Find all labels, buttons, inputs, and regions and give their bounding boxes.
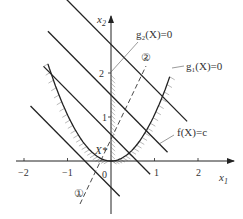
hatch-mark [62,114,67,117]
hatch-mark [111,115,115,119]
g1-curve [48,64,170,161]
hatch-mark [57,102,62,105]
hatch-mark [93,157,98,160]
x1-axis-label: x1 [218,171,228,186]
path-start-label: ① [74,187,84,199]
hatch-mark [167,85,172,88]
hatch-mark [84,150,89,153]
hatch-mark [87,152,92,155]
hatch-mark [142,137,147,140]
hatch-mark [111,143,115,147]
hatch-mark [111,99,115,103]
hatch-mark [60,108,65,111]
search-path-dashed [80,66,146,204]
hatch-mark [111,79,115,83]
hatch-mark [54,95,59,98]
hatch-mark [111,91,115,95]
f-contour-line [44,66,151,174]
hatch-mark [131,151,136,154]
hatch-mark [111,123,115,127]
x-tick-label: 2 [196,167,201,178]
hatch-mark [111,119,115,123]
constraint-curves [48,64,170,161]
hatch-mark [159,106,164,109]
y-tick-label: 1 [102,112,107,123]
hatch-mark [111,75,115,79]
hatch-mark [111,139,115,143]
x-tick-label: −2 [18,167,29,178]
hatch-mark [51,88,56,91]
hatch-mark [82,147,87,150]
hatch-mark [111,87,115,91]
axes [16,16,234,214]
hatch-mark [125,156,130,159]
f-label: f(X)=c [177,126,207,139]
hatch-mark [111,127,115,131]
hatch-mark [111,155,115,159]
hatch-mark [111,107,115,111]
hatch-mark [48,80,53,83]
f-contour-line [48,31,168,152]
hatch-mark [111,151,115,155]
g1-leader-line [172,66,184,68]
x-tick-label: 1 [154,167,159,178]
hatch-mark [156,112,161,115]
hatch-mark [153,118,158,121]
g2-label: g₂(X)=0 [136,28,173,41]
hatch-mark [65,120,70,123]
diagram-canvas: −2 −1 0 1 2 1 2 x1 x2 g₂(X)=0 g₁(X)=0 f(… [0,0,243,219]
hatch-mark [79,143,84,146]
hatch-mark [170,77,175,80]
y-tick-label: 2 [99,68,104,79]
hatch-mark [111,83,115,87]
hatch-mark [139,141,144,144]
path-end-label: ② [141,51,151,63]
f-leader-line [159,135,174,144]
hatch-mark [150,123,155,126]
x-tick-label: 0 [102,169,107,180]
hatch-mark [73,135,78,138]
hatch-mark [123,158,128,161]
x-tick-label: −1 [62,167,73,178]
hatch-mark [68,125,73,128]
g1-label: g₁(X)=0 [186,60,223,73]
hatch-mark [111,111,115,115]
hatch-mark [111,147,115,151]
hatch-mark [134,148,139,151]
x2-axis-label: x2 [96,13,106,28]
hatch-mark [76,139,81,142]
hatch-mark [164,92,169,95]
hatch-mark [137,145,142,148]
hatch-mark [148,128,153,131]
hatch-mark [71,130,76,133]
hatch-mark [111,103,115,107]
